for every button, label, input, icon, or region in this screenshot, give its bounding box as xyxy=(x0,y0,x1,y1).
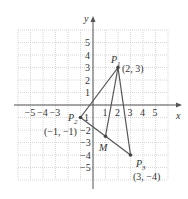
svg-text:1: 1 xyxy=(103,107,108,118)
svg-text:5: 5 xyxy=(153,107,158,118)
svg-text:−4: −4 xyxy=(37,107,48,118)
p3-coord: (3, −4) xyxy=(133,171,160,183)
svg-text:P1: P1 xyxy=(110,54,121,68)
svg-text:3: 3 xyxy=(85,62,90,73)
svg-text:2: 2 xyxy=(115,107,120,118)
svg-text:−3: −3 xyxy=(50,107,61,118)
svg-text:P3: P3 xyxy=(135,158,146,172)
svg-text:−4: −4 xyxy=(80,150,91,161)
svg-text:−5: −5 xyxy=(25,107,36,118)
p1-coord: (2, 3) xyxy=(122,63,144,75)
point-label-p3: P3 (3, −4) xyxy=(133,158,160,183)
svg-text:−3: −3 xyxy=(80,137,91,148)
y-axis-label: y xyxy=(83,13,89,24)
svg-text:P2: P2 xyxy=(67,112,78,126)
svg-text:4: 4 xyxy=(140,107,145,118)
coordinate-plane: y x −5−4−31234554321−2−3−4−51 P1 (2, 3) … xyxy=(0,0,188,199)
svg-text:3: 3 xyxy=(128,107,133,118)
svg-text:2: 2 xyxy=(85,75,90,86)
svg-text:1: 1 xyxy=(85,87,90,98)
p2-coord: (−1, −1) xyxy=(44,126,77,138)
svg-text:−2: −2 xyxy=(80,125,91,136)
point-label-m: M xyxy=(98,142,108,153)
svg-text:−5: −5 xyxy=(80,162,91,173)
svg-text:5: 5 xyxy=(85,37,90,48)
x-axis-label: x xyxy=(175,110,181,121)
svg-text:4: 4 xyxy=(85,50,90,61)
